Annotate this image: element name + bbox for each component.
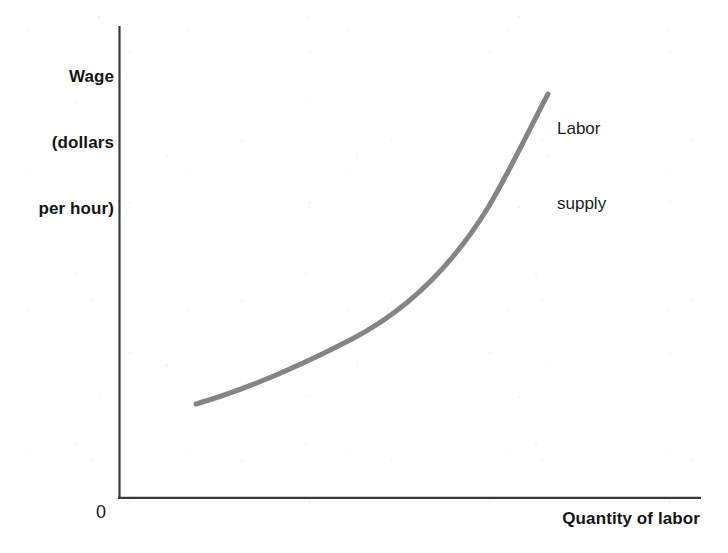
origin-label: 0 bbox=[96, 502, 106, 523]
curve-label-line-1: Labor bbox=[557, 116, 606, 141]
curve-label-line-2: supply bbox=[557, 191, 606, 216]
y-axis-title-line-1: Wage bbox=[38, 66, 114, 88]
y-axis-title-line-3: per hour) bbox=[38, 198, 114, 220]
x-axis-title: Quantity of labor bbox=[489, 508, 700, 530]
y-axis-title-line-2: (dollars bbox=[38, 132, 114, 154]
y-axis-title: Wage (dollars per hour) bbox=[38, 22, 114, 264]
labor-supply-curve bbox=[196, 94, 548, 404]
labor-supply-figure: Wage (dollars per hour) Quantity of labo… bbox=[0, 0, 728, 553]
labor-supply-curve-label: Labor supply bbox=[557, 66, 606, 266]
